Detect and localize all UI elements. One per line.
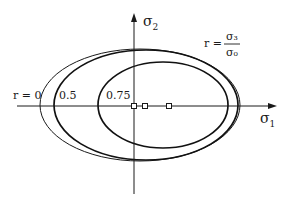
sigma1-arrow-icon — [268, 103, 277, 109]
sigma2-axis-label: σ2 — [143, 13, 158, 32]
sigma1-axis-label: σ1 — [260, 110, 275, 129]
curve-label-r-0: r = 0 — [13, 89, 41, 102]
parameter-denominator: σ₀ — [226, 46, 239, 59]
center-marker-r-0 — [132, 104, 137, 109]
yield-ellipse-diagram: σ2 σ1 r = σ₃ σ₀ r = 0 0.5 0.75 — [0, 0, 290, 201]
center-marker-r-0.75 — [167, 104, 172, 109]
ellipse-r-0.75 — [98, 62, 228, 148]
parameter-definition: r = σ₃ σ₀ — [204, 30, 240, 59]
center-marker-r-0.5 — [143, 104, 148, 109]
parameter-lhs: r = — [204, 37, 222, 50]
sigma2-arrow-icon — [131, 13, 137, 22]
curve-label-r-0.5: 0.5 — [59, 89, 77, 102]
parameter-numerator: σ₃ — [226, 30, 238, 43]
curve-label-r-0.75: 0.75 — [106, 89, 131, 102]
